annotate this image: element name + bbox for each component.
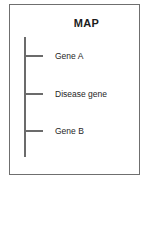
locus-tick-icon: [24, 55, 43, 57]
locus-label-gene-a: Gene A: [55, 50, 83, 62]
locus-label-gene-b: Gene B: [55, 125, 84, 137]
map-figure: MAP Gene A Disease gene Gene B: [0, 0, 150, 231]
locus-label-disease-gene: Disease gene: [55, 88, 107, 100]
locus-tick-icon: [24, 93, 43, 95]
map-panel: MAP Gene A Disease gene Gene B: [9, 4, 140, 175]
page-title: MAP: [10, 17, 141, 29]
locus-tick-icon: [24, 130, 43, 132]
